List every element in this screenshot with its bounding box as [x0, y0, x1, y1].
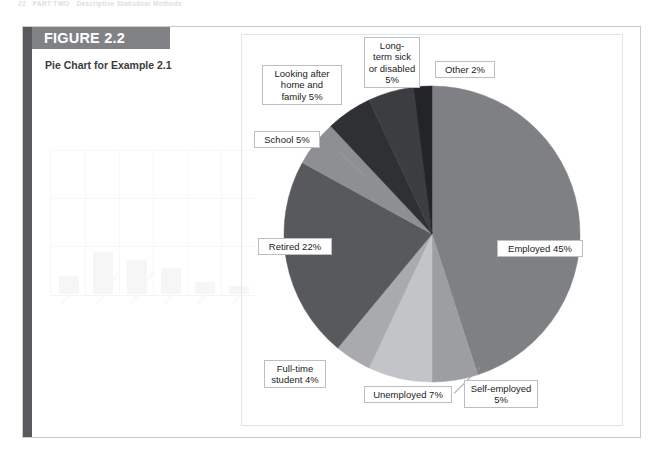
- running-head-page-number: 22: [18, 0, 26, 7]
- pie-data-label: Unemployed 7%: [364, 386, 452, 403]
- figure-caption: Pie Chart for Example 2.1: [45, 59, 172, 71]
- pie-data-label: Full-time student 4%: [264, 360, 326, 388]
- pie-data-label: Long- term sick or disabled 5%: [364, 37, 420, 88]
- pie-slice-group: [284, 86, 580, 382]
- pie-data-label: Self-employed 5%: [464, 380, 538, 408]
- pie-data-label: School 5%: [254, 131, 320, 148]
- figure-container: FIGURE 2.2 Pie Chart for Example 2.1 Emp…: [22, 26, 641, 438]
- pie-data-label: Looking after home and family 5%: [262, 65, 342, 105]
- pie-chart: Employed 45%Self-employed 5%Unemployed 7…: [242, 35, 622, 425]
- chart-plot-area: Employed 45%Self-employed 5%Unemployed 7…: [241, 34, 623, 426]
- pie-data-label: Employed 45%: [497, 240, 583, 257]
- running-head: 22PART TWODescriptive Statistical Method…: [18, 0, 182, 7]
- figure-banner: FIGURE 2.2: [32, 27, 170, 49]
- pie-data-label: Retired 22%: [258, 238, 332, 255]
- pie-data-label: Other 2%: [435, 61, 495, 78]
- running-head-title: Descriptive Statistical Methods: [76, 0, 181, 7]
- running-head-part: PART TWO: [33, 0, 70, 7]
- figure-number-label: FIGURE 2.2: [44, 30, 125, 46]
- figure-left-spine: [23, 27, 32, 437]
